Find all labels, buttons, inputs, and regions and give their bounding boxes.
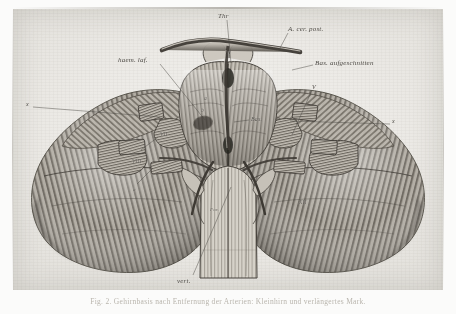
label-a-left: a [133, 187, 136, 192]
label-x-left: x [26, 101, 29, 107]
label-rom-a: a [204, 95, 207, 101]
label-rom-b: b [201, 107, 204, 113]
anatomical-figure [0, 0, 456, 314]
label-thr: Thr [218, 12, 229, 20]
figure-caption: Fig. 2. Gehirnbasis nach Entfernung der … [14, 297, 442, 309]
label-acerpost: A. cer. post. [288, 25, 323, 33]
label-x-right: x [392, 118, 395, 124]
label-v-right: V [312, 84, 316, 90]
label-bas: Bas. [251, 116, 262, 122]
label-for: For. [210, 207, 219, 212]
label-rom-xii: XII [299, 199, 307, 205]
label-haemlat: haem. laf. [118, 56, 148, 64]
label-vert: vert. [177, 277, 191, 285]
plate-page: ThrA. cer. post.Bas. aufgeschnittenhaem.… [0, 0, 456, 314]
label-rom-viii: VIII [132, 158, 142, 164]
label-basauf: Bas. aufgeschnitten [315, 59, 374, 67]
label-rom-vii: VII [160, 131, 168, 137]
